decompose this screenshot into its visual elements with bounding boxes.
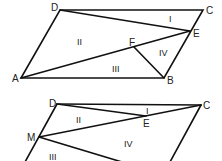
segment-right-edge: [170, 105, 201, 161]
vertex-label-e: E: [193, 28, 200, 39]
region-label-i: I: [146, 106, 149, 116]
region-label-iv: IV: [124, 139, 133, 149]
vertex-label-e: E: [143, 118, 150, 129]
vertex-label-d: D: [49, 98, 56, 109]
vertex-label-d: D: [51, 2, 58, 13]
region-label-i: I: [169, 14, 172, 24]
vertex-label-c: C: [206, 5, 213, 16]
region-label-ii: II: [76, 115, 81, 125]
geometry-figure: D C E F A B I II IV III D C E M I II IV …: [0, 0, 222, 161]
vertex-label-c: C: [203, 100, 210, 111]
vertex-label-a: A: [12, 73, 19, 84]
region-label-ii: II: [77, 37, 82, 47]
region-label-iii: III: [49, 152, 57, 161]
segment-dc: [57, 104, 201, 105]
region-label-iv: IV: [159, 48, 168, 58]
vertex-label-f: F: [129, 37, 135, 48]
vertex-label-b: B: [167, 75, 174, 86]
segment-mc: [39, 105, 201, 137]
region-label-iii: III: [112, 64, 120, 74]
parallelogram-top: D C E F A B I II IV III: [12, 2, 213, 86]
parallelogram-bottom: D C E M I II IV III: [25, 98, 210, 161]
vertex-label-m: M: [27, 132, 35, 143]
segment-de: [57, 104, 146, 116]
